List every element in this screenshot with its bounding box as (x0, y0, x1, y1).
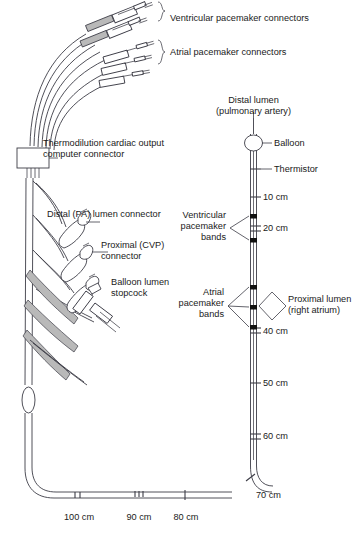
depth-tick-20cm (250, 226, 261, 231)
proximal-lumen-port-leader (259, 292, 286, 320)
atrial-band-1 (250, 285, 257, 290)
depth-label-100cm: 100 cm (50, 512, 108, 523)
depth-label-90cm: 90 cm (113, 512, 165, 523)
depth-label-70cm: 70 cm (256, 490, 281, 501)
depth-label-80cm: 80 cm (160, 512, 212, 523)
leader-atrial-band-2 (228, 306, 249, 307)
depth-label-20cm: 20 cm (263, 223, 288, 234)
ventricular-connector-brace (158, 2, 165, 21)
label-ventricular-bands-line2: pacemaker (130, 221, 226, 232)
label-proximal-cvp-line2: connector (101, 251, 141, 262)
depth-tick-60cm (250, 434, 261, 439)
label-distal-lumen-line1: Distal lumen (201, 95, 306, 106)
ventricular-band-2 (250, 238, 257, 243)
ventricular-band-1 (250, 214, 257, 219)
ventricular-pacemaker-connector-2 (80, 17, 147, 47)
proximal-cvp-connector (61, 243, 93, 282)
leader-vent-band-1 (230, 216, 249, 228)
shaft-junction-bulb (22, 387, 35, 413)
leader-vent-band-2 (230, 228, 249, 240)
depth-label-40cm: 40 cm (263, 326, 288, 337)
label-atrial-connectors: Atrial pacemaker connectors (170, 47, 286, 58)
label-atrial-bands-line2: pacemaker (130, 298, 224, 309)
figure-canvas: .ln { fill:none; stroke:#3c3c46; stroke-… (0, 0, 357, 540)
depth-label-50cm: 50 cm (263, 378, 288, 389)
leader-atrial-band-3 (228, 306, 249, 327)
label-balloon: Balloon (274, 138, 305, 149)
label-thermodilution-line1: Thermodilution cardiac output (43, 138, 164, 149)
atrial-band-3 (250, 325, 257, 330)
atrial-connector-brace (158, 40, 165, 64)
depth-tick-70cm (246, 474, 255, 481)
depth-label-10cm: 10 cm (263, 192, 288, 203)
label-atrial-bands-line3: bands (130, 309, 224, 320)
leader-atrial-band-1 (228, 287, 249, 306)
balloon-shape (245, 135, 263, 151)
label-distal-lumen-line2: (pulmonary artery) (201, 106, 306, 117)
atrial-band-2 (250, 305, 257, 310)
catheter-bottom-left-curve2 (32, 413, 232, 492)
label-proximal-lumen-line2: (right atrium) (288, 305, 340, 316)
label-ventricular-bands-line1: Ventricular (130, 210, 226, 221)
pacemaker-wire-bundle (30, 34, 119, 150)
atrial-pacemaker-connector-1 (103, 41, 154, 64)
label-thermistor: Thermistor (274, 164, 318, 175)
label-thermodilution-line2: computer connector (43, 149, 124, 160)
catheter-bottom-left-curve (25, 413, 232, 498)
label-ventricular-connectors: Ventricular pacemaker connectors (170, 13, 309, 24)
label-atrial-bands-line1: Atrial (130, 287, 224, 298)
label-ventricular-bands-line3: bands (130, 232, 226, 243)
proximal-shaft-left (25, 178, 26, 385)
label-proximal-lumen-line1: Proximal lumen (288, 294, 351, 305)
catheter-diagram: .ln { fill:none; stroke:#3c3c46; stroke-… (0, 0, 357, 540)
depth-tick-100cm (75, 492, 80, 498)
depth-label-60cm: 60 cm (263, 431, 288, 442)
